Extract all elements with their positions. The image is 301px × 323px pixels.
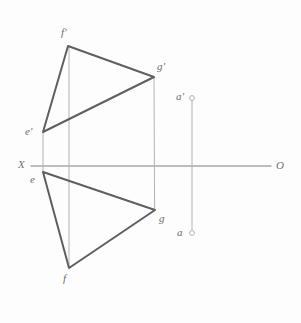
label-g: g bbox=[159, 213, 165, 224]
triangle-e-f-g bbox=[43, 172, 155, 268]
label-f: f bbox=[63, 273, 66, 284]
projector-line-g bbox=[154, 77, 155, 210]
point-marker-a bbox=[190, 231, 195, 236]
projection-drawing bbox=[0, 0, 301, 323]
triangle-e-prime-f-prime-g-prime bbox=[43, 46, 154, 132]
label-a: a bbox=[177, 227, 183, 238]
label-axis-x: X bbox=[18, 159, 25, 170]
label-f-prime: f' bbox=[61, 27, 67, 38]
point-marker-a-prime bbox=[190, 96, 195, 101]
label-e: e bbox=[30, 174, 35, 185]
geometry-figure-canvas: f' g' e' e g f a' a X O bbox=[0, 0, 301, 323]
label-g-prime: g' bbox=[157, 61, 165, 72]
label-e-prime: e' bbox=[25, 126, 33, 137]
label-axis-o: O bbox=[276, 160, 284, 171]
label-a-prime: a' bbox=[176, 91, 184, 102]
